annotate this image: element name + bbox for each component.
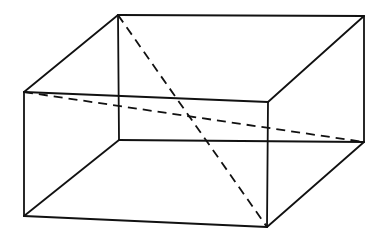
edge-back-bottom-left-to-back-bottom-right <box>119 140 364 142</box>
dashed-diagonal-back-top-left-to-front-bottom-right <box>118 15 267 227</box>
edge-back-top-left-to-back-top-right <box>118 15 364 16</box>
cuboid-diagram <box>0 0 390 238</box>
edge-back-top-left-to-front-top-left <box>24 15 118 92</box>
cuboid-edges <box>24 15 364 227</box>
edge-back-bottom-right-to-front-bottom-right <box>267 142 364 227</box>
edge-back-top-right-to-front-top-right <box>268 16 364 102</box>
edge-front-top-right-to-front-bottom-right <box>267 102 268 227</box>
edge-back-top-left-to-back-bottom-left <box>118 15 119 140</box>
edge-back-bottom-left-to-front-bottom-left <box>24 140 119 216</box>
space-diagonals <box>24 15 364 227</box>
edge-front-bottom-left-to-front-bottom-right <box>24 216 267 227</box>
